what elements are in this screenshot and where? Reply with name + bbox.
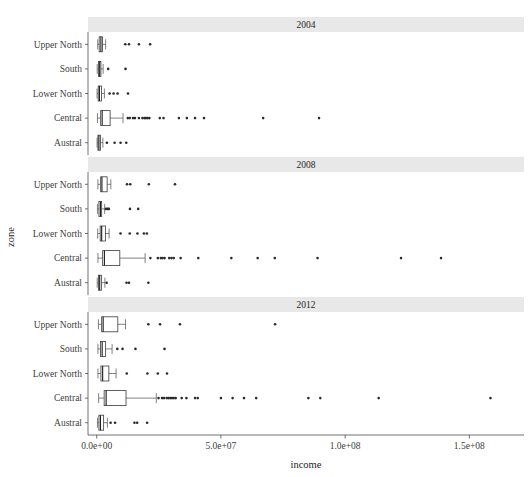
outlier-point-0	[125, 372, 128, 375]
y-tick-label-2: Lower North	[33, 229, 83, 239]
outlier-point-1	[146, 372, 149, 375]
y-tick-label-3: Central	[54, 113, 82, 123]
outlier-point-13	[316, 257, 319, 260]
outlier-point-2	[179, 323, 182, 326]
outlier-point-9	[180, 397, 183, 400]
outlier-point-0	[157, 397, 160, 400]
box-iqr	[102, 317, 118, 332]
outlier-point-1	[113, 141, 116, 144]
y-tick-label-0: Upper North	[34, 180, 83, 190]
outlier-point-8	[179, 257, 182, 260]
outlier-point-17	[307, 397, 310, 400]
outlier-point-3	[274, 323, 277, 326]
outlier-point-2	[116, 92, 119, 95]
box-iqr	[100, 226, 105, 241]
outlier-point-12	[178, 117, 181, 120]
outlier-point-11	[256, 257, 259, 260]
outlier-point-4	[146, 232, 149, 235]
outlier-point-7	[172, 257, 175, 260]
box-iqr	[104, 391, 126, 406]
outlier-point-17	[318, 117, 321, 120]
outlier-point-14	[194, 117, 197, 120]
outlier-point-0	[109, 421, 112, 424]
outlier-point-10	[230, 257, 233, 260]
outlier-point-3	[163, 348, 166, 351]
outlier-point-0	[106, 141, 109, 144]
plot-canvas: 2004Upper NorthSouthLower NorthCentralAu…	[0, 0, 530, 477]
y-tick-label-3: Central	[54, 253, 82, 263]
outlier-point-11	[194, 397, 197, 400]
outlier-point-20	[489, 397, 492, 400]
outlier-point-1	[157, 257, 160, 260]
panel-background	[88, 312, 524, 435]
outlier-point-15	[440, 257, 443, 260]
x-tick-label-1: 5.0e+07	[205, 441, 236, 451]
outlier-point-1	[129, 183, 132, 186]
y-axis-title: zone	[5, 227, 16, 247]
x-tick-label-0: 0.0e+00	[81, 441, 112, 451]
outlier-point-3	[147, 281, 150, 284]
outlier-point-3	[125, 141, 128, 144]
outlier-point-1	[114, 421, 117, 424]
outlier-point-12	[197, 397, 200, 400]
outlier-point-1	[125, 281, 128, 284]
outlier-point-1	[159, 323, 162, 326]
box-iqr	[103, 251, 120, 266]
y-tick-label-0: Upper North	[34, 320, 83, 330]
y-tick-label-4: Austral	[54, 418, 82, 428]
outlier-point-2	[119, 141, 122, 144]
outlier-point-5	[168, 257, 171, 260]
outlier-point-3	[127, 92, 130, 95]
y-tick-label-4: Austral	[54, 278, 82, 288]
outlier-point-2	[163, 397, 166, 400]
outlier-point-4	[163, 257, 166, 260]
y-tick-label-4: Austral	[54, 138, 82, 148]
outlier-point-3	[129, 208, 132, 211]
facet-strip-label: 2008	[297, 160, 316, 170]
outlier-point-0	[105, 281, 108, 284]
outlier-point-6	[170, 257, 173, 260]
outlier-point-13	[186, 117, 189, 120]
outlier-point-13	[220, 397, 223, 400]
outlier-point-1	[128, 232, 131, 235]
box-iqr	[100, 341, 105, 356]
outlier-point-9	[197, 257, 200, 260]
outlier-point-2	[134, 348, 137, 351]
outlier-point-14	[400, 257, 403, 260]
x-axis-title: income	[291, 459, 322, 470]
outlier-point-10	[158, 117, 161, 120]
outlier-point-1	[124, 68, 127, 71]
outlier-point-16	[255, 397, 258, 400]
outlier-point-2	[108, 208, 111, 211]
outlier-point-4	[138, 117, 141, 120]
outlier-point-15	[243, 397, 246, 400]
y-tick-label-0: Upper North	[34, 40, 83, 50]
outlier-point-3	[149, 43, 152, 46]
outlier-point-3	[143, 232, 146, 235]
outlier-point-0	[119, 232, 122, 235]
outlier-point-2	[128, 281, 131, 284]
panel-background	[88, 172, 524, 295]
outlier-point-2	[136, 232, 139, 235]
facet-panel-2012: 2012Upper NorthSouthLower NorthCentralAu…	[33, 297, 524, 451]
outlier-point-3	[134, 117, 137, 120]
outlier-point-2	[133, 421, 136, 424]
outlier-point-1	[128, 117, 131, 120]
facet-panel-2004: 2004Upper NorthSouthLower NorthCentralAu…	[33, 17, 524, 155]
outlier-point-0	[149, 257, 152, 260]
y-tick-label-3: Central	[54, 393, 82, 403]
y-tick-label-1: South	[60, 344, 82, 354]
outlier-point-2	[157, 372, 160, 375]
outlier-point-11	[162, 117, 165, 120]
outlier-point-0	[108, 92, 111, 95]
outlier-point-9	[148, 117, 151, 120]
outlier-point-1	[112, 92, 115, 95]
outlier-point-12	[274, 257, 277, 260]
outlier-point-16	[262, 117, 265, 120]
outlier-point-0	[124, 43, 127, 46]
box-iqr	[99, 415, 104, 430]
x-tick-label-3: 1.5e+08	[454, 441, 485, 451]
panel-background	[88, 32, 524, 155]
facet-strip-label: 2012	[297, 300, 316, 310]
x-tick-label-2: 1.0e+08	[330, 441, 361, 451]
